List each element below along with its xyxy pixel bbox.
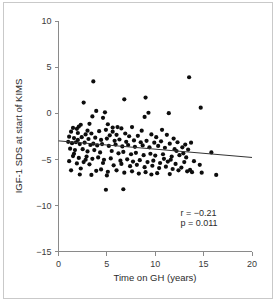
data-point <box>143 165 147 169</box>
data-point <box>67 135 71 139</box>
data-point <box>128 164 132 168</box>
data-point <box>68 147 72 151</box>
x-axis-tick-labels: 05101520 <box>56 259 257 269</box>
data-point <box>86 137 90 141</box>
data-point <box>184 155 188 159</box>
data-point <box>77 156 81 160</box>
y-axis-ticks <box>55 21 59 252</box>
data-point <box>117 137 121 141</box>
data-point <box>113 139 117 143</box>
data-point <box>72 152 76 156</box>
data-point <box>146 111 150 115</box>
data-point <box>134 151 138 155</box>
data-point <box>159 139 163 143</box>
data-point <box>69 168 73 172</box>
data-point <box>132 138 136 142</box>
data-point <box>155 171 159 175</box>
data-point <box>143 95 147 99</box>
data-point <box>107 144 111 148</box>
y-axis-tick-labels: 1050−5−10−15 <box>36 16 51 257</box>
data-point <box>168 172 172 176</box>
data-point <box>164 165 168 169</box>
data-point <box>198 163 202 167</box>
data-point <box>80 135 84 139</box>
data-point <box>90 157 94 161</box>
data-point <box>157 166 161 170</box>
x-tick-label-1: 5 <box>104 259 109 269</box>
data-point <box>83 132 87 136</box>
data-point <box>123 131 127 135</box>
data-point <box>72 136 76 140</box>
data-point <box>76 138 80 142</box>
data-point <box>92 148 96 152</box>
x-axis-ticks <box>59 252 253 256</box>
x-axis-title: Time on GH (years) <box>113 272 196 283</box>
data-point <box>173 162 177 166</box>
data-point <box>122 97 126 101</box>
data-point <box>101 161 105 165</box>
data-point <box>85 129 89 133</box>
x-axis: 05101520 Time on GH (years) <box>56 252 257 284</box>
data-point <box>169 158 173 162</box>
x-tick-label-0: 0 <box>56 259 61 269</box>
data-point <box>137 171 141 175</box>
data-point <box>138 158 142 162</box>
x-tick-label-2: 10 <box>150 259 160 269</box>
data-point <box>165 133 169 137</box>
data-point <box>76 131 80 135</box>
data-point <box>111 130 115 134</box>
data-point <box>187 75 191 79</box>
data-point <box>104 188 108 192</box>
data-point <box>105 173 109 177</box>
data-point <box>180 145 184 149</box>
data-point <box>171 167 175 171</box>
data-point <box>114 168 118 172</box>
data-point <box>99 167 103 171</box>
data-point <box>112 163 116 167</box>
y-axis-title: IGF-1 SDS at start of KIMS <box>13 79 24 194</box>
y-tick-label-3: −5 <box>41 155 51 165</box>
data-point <box>105 136 109 140</box>
data-points <box>66 75 218 192</box>
data-point <box>141 143 145 147</box>
data-point <box>119 126 123 130</box>
data-point <box>91 79 95 83</box>
data-point <box>94 109 98 113</box>
data-point <box>186 148 190 152</box>
data-point <box>93 136 97 140</box>
data-point <box>130 169 134 173</box>
data-point <box>175 140 179 144</box>
data-point <box>96 155 100 159</box>
data-point <box>182 160 186 164</box>
data-point <box>78 172 82 176</box>
data-point <box>162 157 166 161</box>
data-point <box>153 154 157 158</box>
annotation-p-value: p = 0.011 <box>180 218 217 228</box>
data-point <box>108 133 112 137</box>
data-point <box>121 150 125 154</box>
data-point <box>87 162 91 166</box>
data-point <box>125 157 129 161</box>
data-point <box>189 141 193 145</box>
y-tick-label-0: 10 <box>41 16 51 26</box>
data-point <box>135 163 139 167</box>
data-point <box>103 110 107 114</box>
data-point <box>177 153 181 157</box>
data-point <box>172 136 176 140</box>
data-point <box>151 159 155 163</box>
data-point <box>192 159 196 163</box>
data-point <box>145 160 149 164</box>
y-tick-label-2: 0 <box>46 108 51 118</box>
data-point <box>83 158 87 162</box>
data-point <box>136 134 140 138</box>
x-tick-label-4: 20 <box>247 259 257 269</box>
data-point <box>101 116 105 120</box>
data-point <box>200 171 204 175</box>
data-point <box>111 125 115 129</box>
data-point <box>77 124 81 128</box>
data-point <box>167 111 171 115</box>
data-point <box>176 168 180 172</box>
scatter-plot: 1050−5−10−15 IGF-1 SDS at start of KIMS … <box>4 3 272 298</box>
data-point <box>127 134 131 138</box>
data-point <box>81 147 85 151</box>
